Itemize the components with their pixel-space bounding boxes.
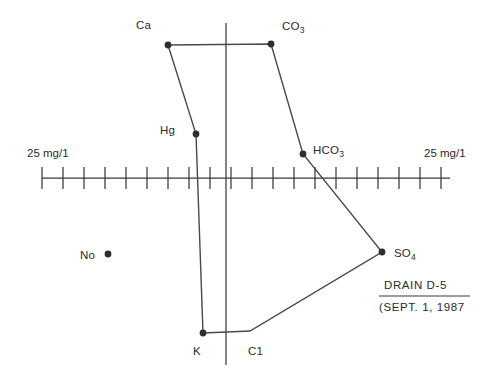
ion-label-hco3-base: HCO [313,144,339,156]
ion-vertex-k [200,330,207,337]
ion-label-so4-base: SO [394,247,411,259]
ion-label-so4: SO4 [394,247,416,262]
ion-vertex-hco3 [300,151,307,158]
ion-label-hco3-subscript: 3 [339,149,344,159]
ion-label-co3-base: CO [282,20,300,32]
ion-label-co3-subscript: 3 [300,25,305,35]
ion-label-co3: CO3 [282,20,305,35]
ion-label-na: No [80,249,95,261]
caption-date: (SEPT. 1, 1987 [379,301,465,313]
ion-vertex-hg [193,131,200,138]
ion-vertex-co3 [268,41,275,48]
caption-title: DRAIN D-5 [384,279,447,291]
ion-label-cl: C1 [248,345,263,357]
stiff-polygon [168,44,382,333]
scale-label-right: 25 mg/1 [424,147,466,159]
ion-label-hg: Hg [160,124,175,136]
stiff-diagram-canvas: 25 mg/1 25 mg/1 Ca CO3 Hg HCO3 No SO4 K … [0,0,492,385]
ion-label-ca: Ca [136,19,152,31]
ion-vertex-so4 [379,249,386,256]
scale-label-left: 25 mg/1 [27,147,69,159]
ion-label-so4-subscript: 4 [411,252,416,262]
ion-vertex-ca [165,42,172,49]
stiff-diagram-figure: 25 mg/1 25 mg/1 Ca CO3 Hg HCO3 No SO4 K … [0,0,492,385]
ion-label-hco3: HCO3 [313,144,344,159]
ion-vertex-no [105,251,112,258]
ion-label-k: K [193,345,201,357]
